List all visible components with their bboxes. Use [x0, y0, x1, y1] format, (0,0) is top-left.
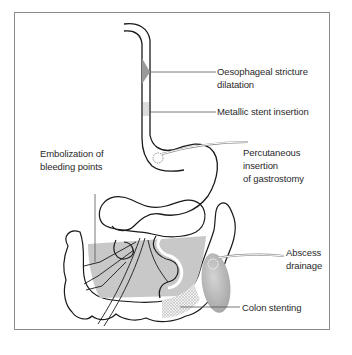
label-oesophageal-stricture: Oesophageal stricture dilatation [217, 65, 308, 91]
label-gastrostomy-line3: of gastrostomy [243, 172, 304, 185]
label-embolization-line2: bleeding points [40, 160, 103, 173]
duodenum [99, 197, 205, 237]
label-gastrostomy-line1: Percutaneous [243, 146, 304, 159]
label-abscess-line2: drainage [286, 259, 322, 272]
label-oesophageal-stricture-line1: Oesophageal stricture [217, 65, 308, 78]
stent-shading-icon [143, 102, 149, 116]
label-abscess-drainage: Abscess drainage [286, 246, 322, 272]
stricture-shading-icon [142, 58, 150, 84]
label-gastrostomy-line2: insertion [243, 159, 304, 172]
gastrostomy-catheter-icon [153, 142, 248, 163]
label-colon-stenting-text: Colon stenting [242, 301, 301, 314]
label-gastrostomy: Percutaneous insertion of gastrostomy [243, 146, 304, 185]
label-oesophageal-stricture-line2: dilatation [217, 78, 308, 91]
mesentery-shading [88, 236, 206, 298]
label-embolization-line1: Embolization of [40, 147, 103, 160]
label-metallic-stent-text: Metallic stent insertion [217, 105, 309, 118]
label-metallic-stent: Metallic stent insertion [217, 105, 309, 118]
label-embolization: Embolization of bleeding points [40, 147, 103, 173]
label-abscess-line1: Abscess [286, 246, 322, 259]
stomach [112, 135, 217, 231]
oesophagus [124, 24, 150, 138]
label-colon-stenting: Colon stenting [242, 301, 301, 314]
